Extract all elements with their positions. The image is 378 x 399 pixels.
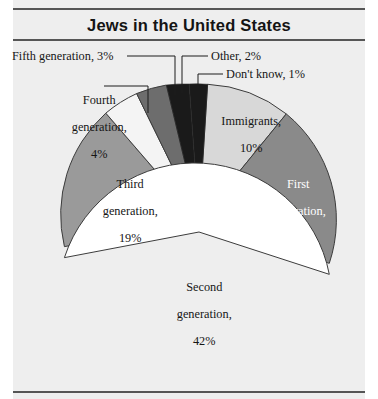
label-immigrants-line2: 10% bbox=[240, 141, 263, 155]
label-first-generation-line2: generation, bbox=[271, 204, 326, 218]
label-third-generation: Third generation, 19% bbox=[78, 164, 164, 259]
label-fourth-generation-line1: Fourth bbox=[83, 93, 116, 107]
label-fifth-generation: Fifth generation, 3% bbox=[12, 50, 113, 64]
label-third-generation-line3: 19% bbox=[119, 231, 142, 245]
label-immigrants-line1: Immigrants, bbox=[221, 114, 281, 128]
label-first-generation-line3: 19% bbox=[287, 231, 310, 245]
label-fourth-generation-line2: generation, bbox=[72, 120, 127, 134]
pie-chart-area: Fifth generation, 3% Fourth generation, … bbox=[0, 0, 378, 399]
label-second-generation-line1: Second bbox=[186, 280, 222, 294]
label-first-generation: First generation, 19% bbox=[250, 164, 328, 259]
label-dont-know: Don't know, 1% bbox=[226, 68, 305, 82]
pie-chart-figure: Jews in the United States bbox=[0, 0, 378, 399]
label-third-generation-line2: generation, bbox=[103, 204, 158, 218]
label-third-generation-line1: Third bbox=[116, 177, 143, 191]
label-second-generation-line2: generation, bbox=[177, 307, 232, 321]
label-fourth-generation: Fourth generation, 4% bbox=[47, 80, 133, 175]
label-other: Other, 2% bbox=[211, 50, 261, 64]
label-immigrants: Immigrants, 10% bbox=[196, 101, 288, 169]
bottom-rule bbox=[13, 391, 365, 393]
label-first-generation-line1: First bbox=[287, 177, 310, 191]
label-fourth-generation-line3: 4% bbox=[91, 147, 107, 161]
label-second-generation-line3: 42% bbox=[193, 334, 216, 348]
label-second-generation: Second generation, 42% bbox=[140, 267, 250, 362]
